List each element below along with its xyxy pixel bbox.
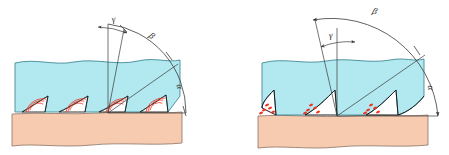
arc-tick-beta-end [414, 46, 420, 55]
chip-body [262, 59, 424, 115]
diagram-canvas: γ β α [0, 0, 449, 155]
chip-body [15, 60, 180, 112]
tool-angle-figure: γ β α [0, 0, 449, 155]
gamma-label: γ [111, 14, 117, 25]
beta-label: β [370, 5, 379, 16]
arc-tick-beta-end [166, 52, 172, 60]
workpiece-body [258, 115, 428, 148]
friction-dot [268, 106, 273, 110]
workpiece-body [12, 112, 182, 146]
gamma-label: γ [328, 30, 333, 40]
alpha-label: α [426, 85, 437, 91]
friction-dot [265, 103, 270, 107]
friction-dot [259, 111, 264, 115]
friction-dot [316, 110, 321, 114]
friction-dot [376, 110, 381, 114]
positive-rake-diagram: γ β α [12, 14, 186, 146]
friction-dot-cluster [259, 103, 276, 115]
negative-rake-diagram: β γ α [258, 5, 438, 148]
gamma-arc [321, 42, 355, 47]
